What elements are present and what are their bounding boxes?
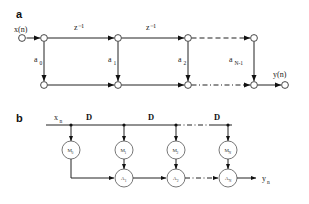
svg-text:1: 1 bbox=[114, 60, 117, 66]
svg-text:N: N bbox=[229, 151, 232, 155]
sum-node-a-n bbox=[251, 82, 258, 89]
svg-text:a: a bbox=[229, 55, 233, 64]
sum-node-a-2 bbox=[185, 82, 192, 89]
svg-text:0: 0 bbox=[40, 60, 43, 66]
coef-label-a-2: a 2 bbox=[178, 55, 187, 66]
svg-text:1: 1 bbox=[125, 179, 127, 183]
rail-dot-b-n bbox=[226, 123, 229, 126]
panel-a-letter: a bbox=[16, 8, 23, 20]
output-label-a: y(n) bbox=[273, 70, 287, 79]
panel-b-mult-outputs bbox=[71, 159, 228, 178]
svg-text:n: n bbox=[267, 179, 270, 185]
svg-text:a: a bbox=[178, 55, 182, 64]
svg-text:a: a bbox=[108, 55, 112, 64]
svg-text:y: y bbox=[262, 174, 266, 183]
panel-b-tap-wires bbox=[71, 125, 228, 141]
sum-node-a-1 bbox=[115, 82, 122, 89]
delay-label-a-0: z⁻¹ bbox=[74, 23, 85, 32]
tap-node-a-2 bbox=[185, 35, 192, 42]
rail-dot-b-2 bbox=[174, 123, 177, 126]
svg-text:a: a bbox=[34, 55, 38, 64]
svg-text:n: n bbox=[60, 118, 63, 124]
tap-node-a-0 bbox=[41, 35, 48, 42]
rail-dot-b-1 bbox=[122, 123, 125, 126]
rail-dot-b-0 bbox=[69, 123, 72, 126]
delay-label-b-1: D bbox=[148, 112, 154, 122]
svg-text:N: N bbox=[229, 179, 232, 183]
svg-text:2: 2 bbox=[177, 179, 179, 183]
svg-text:0: 0 bbox=[72, 151, 74, 155]
svg-text:x: x bbox=[54, 113, 58, 122]
svg-text:2: 2 bbox=[177, 151, 179, 155]
delay-label-b-0: D bbox=[86, 112, 92, 122]
svg-text:N-1: N-1 bbox=[235, 60, 244, 66]
output-terminal-a bbox=[282, 82, 289, 89]
svg-text:1: 1 bbox=[125, 151, 127, 155]
tap-node-a-1 bbox=[115, 35, 122, 42]
output-label-b: y n bbox=[262, 174, 270, 185]
delay-label-a-1: z⁻¹ bbox=[146, 23, 157, 32]
coef-label-a-0: a 0 bbox=[34, 55, 43, 66]
input-terminal-a bbox=[19, 35, 26, 42]
panel-a-coef-branches bbox=[44, 42, 254, 82]
signal-flow-figure: a x(n) y(n) z⁻¹ z⁻¹ a 0 a bbox=[0, 0, 309, 204]
input-label-a: x(n) bbox=[14, 25, 28, 34]
sum-node-a-0 bbox=[41, 82, 48, 89]
input-label-b: x n bbox=[54, 113, 63, 124]
tap-node-a-n bbox=[251, 35, 258, 42]
svg-text:2: 2 bbox=[184, 60, 187, 66]
panel-b-letter: b bbox=[16, 112, 23, 124]
coef-label-a-n: a N-1 bbox=[229, 55, 243, 66]
coef-label-a-1: a 1 bbox=[108, 55, 117, 66]
delay-label-b-2: D bbox=[214, 112, 220, 122]
